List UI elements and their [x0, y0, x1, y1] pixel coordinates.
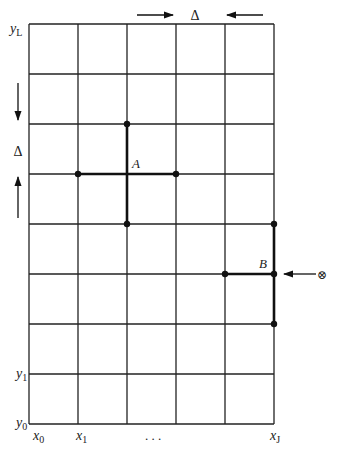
horizontal-delta-label: Δ — [190, 8, 199, 23]
stencil-a-neighbor-node — [173, 171, 179, 177]
y-top-label: yL — [8, 21, 22, 38]
stencil-a-neighbor-node — [124, 121, 130, 127]
x0-label: x0 — [32, 428, 44, 445]
stencil-b-neighbor-node — [271, 221, 277, 227]
point-b-label: B — [259, 256, 267, 271]
circled-times-icon: ⊗ — [317, 268, 327, 282]
xJ-label: xJ — [269, 428, 280, 445]
stencil-b-neighbor-node — [222, 271, 228, 277]
horizontal-spacing-indicator: Δ — [137, 8, 263, 23]
boundary-source-indicator: ⊗ — [284, 268, 327, 282]
grid-lines — [29, 24, 274, 424]
vertical-spacing-indicator: Δ — [13, 83, 22, 218]
stencil-a-neighbor-node — [124, 221, 130, 227]
point-a-label: A — [131, 156, 140, 171]
vertical-delta-label: Δ — [13, 144, 22, 159]
stencil-b-neighbor-node — [271, 321, 277, 327]
stencil-b-center-node — [271, 271, 277, 277]
finite-difference-grid-diagram: Δ Δ yL y1 y0 x0 x1 . . . xJ A B ⊗ — [0, 0, 338, 454]
stencil-a-neighbor-node — [75, 171, 81, 177]
y0-label: y0 — [14, 415, 27, 432]
x-ellipsis-label: . . . — [145, 428, 161, 443]
y1-label: y1 — [14, 366, 27, 383]
x1-label: x1 — [75, 428, 87, 445]
